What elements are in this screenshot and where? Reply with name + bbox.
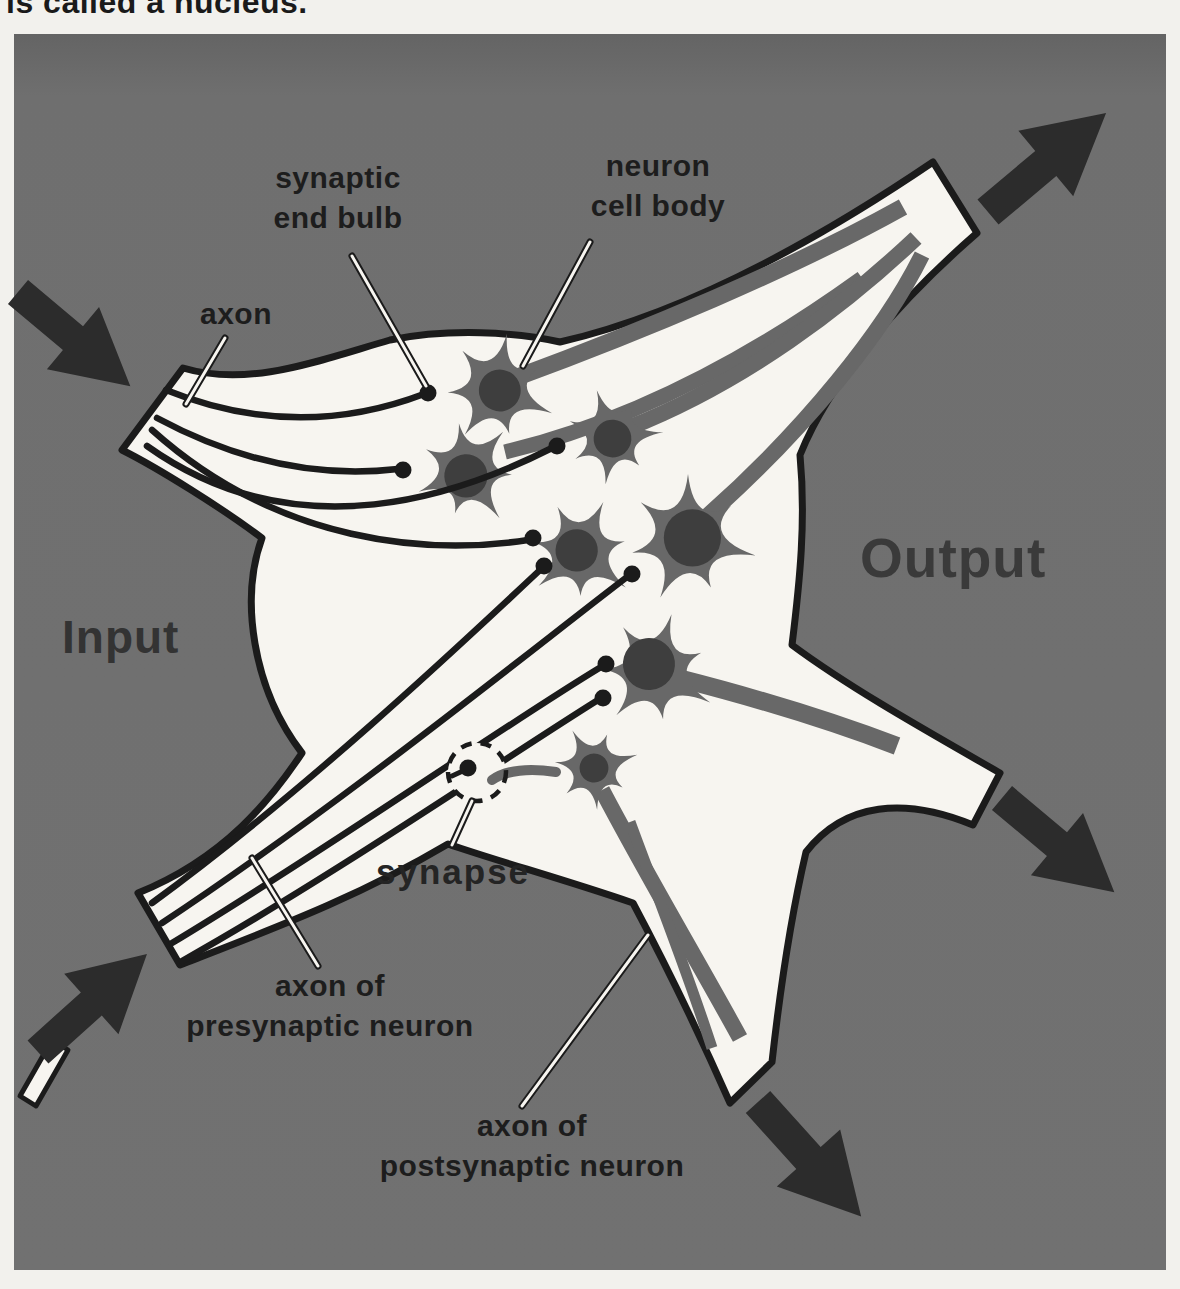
synaptic-end-bulb — [525, 530, 542, 547]
cropped-caption-line: is called a nucleus. — [6, 0, 706, 17]
label-line: end bulb — [274, 198, 403, 238]
label-synapse: synapse — [376, 852, 530, 892]
label-axon: axon — [200, 297, 272, 331]
label-axon-presynaptic: axon of presynaptic neuron — [186, 966, 473, 1046]
label-synaptic-end-bulb: synaptic end bulb — [274, 158, 403, 238]
label-input: Input — [62, 610, 179, 664]
label-line: postsynaptic neuron — [380, 1146, 685, 1186]
figure-neuron-nucleus: is called a nucleus. synaptic end bulb n… — [0, 0, 1180, 1289]
label-line: presynaptic neuron — [186, 1006, 473, 1046]
neuron-nucleus — [664, 509, 721, 566]
label-line: synaptic — [274, 158, 403, 198]
caption-text: is called a nucleus. — [6, 0, 706, 17]
label-neuron-cell-body: neuron cell body — [591, 146, 726, 226]
label-output: Output — [860, 526, 1046, 590]
label-axon-postsynaptic: axon of postsynaptic neuron — [380, 1106, 685, 1186]
label-line: axon of — [380, 1106, 685, 1146]
synaptic-end-bulb — [395, 462, 412, 479]
synaptic-end-bulb — [598, 656, 615, 673]
label-line: cell body — [591, 186, 726, 226]
synapse-end-bulb — [460, 760, 477, 777]
synaptic-end-bulb — [624, 566, 641, 583]
synaptic-end-bulb — [536, 558, 553, 575]
synaptic-end-bulb — [595, 690, 612, 707]
label-line: neuron — [591, 146, 726, 186]
synaptic-end-bulb — [549, 438, 566, 455]
label-line: axon of — [186, 966, 473, 1006]
